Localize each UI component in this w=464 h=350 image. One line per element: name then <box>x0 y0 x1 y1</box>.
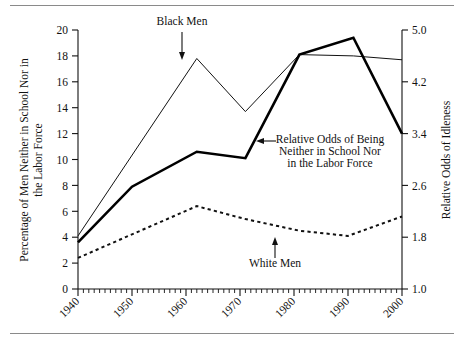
left-tick-label: 14 <box>57 102 69 114</box>
arrow-down-icon <box>179 52 185 60</box>
left-tick-label: 0 <box>62 283 68 295</box>
x-tick-label: 1940 <box>57 295 82 320</box>
left-tick-label: 20 <box>57 24 69 36</box>
left-tick-label: 8 <box>62 180 68 192</box>
right-tick-label: 5.0 <box>412 24 427 36</box>
left-tick-label: 18 <box>57 50 69 62</box>
line-chart-svg: 0 2 4 6 8 10 12 14 16 18 20 1.0 1.8 2.6 … <box>0 0 464 350</box>
annotation-black-men: Black Men <box>157 15 208 60</box>
right-axis-title: Relative Odds of Idleness <box>440 100 452 219</box>
arrow-left-icon <box>256 138 264 144</box>
white-men-annotation-label: White Men <box>249 257 301 269</box>
relative-odds-annotation-line2: Neither in School Nor <box>279 145 381 157</box>
black-men-annotation-label: Black Men <box>157 15 208 27</box>
left-tick-label: 16 <box>57 76 69 88</box>
x-axis-tick-labels: 1940 1950 1960 1970 1980 1990 2000 <box>57 295 406 320</box>
left-axis-title-line2: the Labor Force <box>32 123 44 196</box>
right-tick-label: 1.0 <box>412 283 427 295</box>
left-axis-title-line1: Percentage of Men Neither in School Nor … <box>18 58 31 262</box>
left-axis-title: Percentage of Men Neither in School Nor … <box>18 58 44 262</box>
right-tick-label: 2.6 <box>412 180 427 192</box>
x-tick-label: 1980 <box>273 295 298 320</box>
x-tick-label: 1950 <box>111 295 136 320</box>
right-axis-ticks <box>402 30 408 289</box>
x-tick-label: 1970 <box>219 295 244 320</box>
x-tick-label: 1960 <box>165 295 190 320</box>
x-tick-label: 1990 <box>327 295 352 320</box>
right-tick-label: 1.8 <box>412 231 427 243</box>
right-axis-tick-labels: 1.0 1.8 2.6 3.4 4.2 5.0 <box>412 24 427 295</box>
annotation-relative-odds: Relative Odds of Being Neither in School… <box>256 133 384 169</box>
right-axis-title-text: Relative Odds of Idleness <box>440 100 452 219</box>
chart-figure: 0 2 4 6 8 10 12 14 16 18 20 1.0 1.8 2.6 … <box>0 0 464 350</box>
left-tick-label: 10 <box>57 154 69 166</box>
left-tick-label: 6 <box>62 206 68 218</box>
left-tick-label: 2 <box>62 257 68 269</box>
left-tick-label: 12 <box>57 128 69 140</box>
arrow-up-icon <box>272 237 278 245</box>
right-tick-label: 4.2 <box>412 76 427 88</box>
left-tick-label: 4 <box>62 231 68 243</box>
relative-odds-annotation-line3: in the Labor Force <box>287 157 372 169</box>
x-tick-label: 2000 <box>381 295 406 320</box>
left-axis-tick-labels: 0 2 4 6 8 10 12 14 16 18 20 <box>57 24 69 295</box>
left-axis-ticks <box>72 30 78 289</box>
right-tick-label: 3.4 <box>412 128 427 140</box>
annotation-white-men: White Men <box>249 237 301 269</box>
white-men-line <box>78 206 402 258</box>
